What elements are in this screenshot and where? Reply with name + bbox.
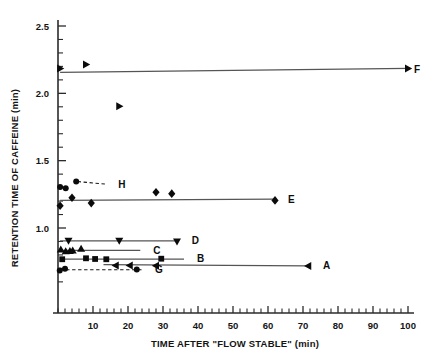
datapoint-B bbox=[83, 255, 89, 261]
y-tick-label-1.5: 1.5 bbox=[36, 155, 50, 166]
datapoint-F bbox=[83, 60, 90, 68]
datapoint-H bbox=[63, 185, 69, 191]
datapoint-B bbox=[59, 256, 65, 262]
y-tick-label-1.0: 1.0 bbox=[36, 223, 49, 234]
y-tick-label-2.0: 2.0 bbox=[36, 88, 49, 99]
series-label-D: D bbox=[192, 235, 199, 246]
trendline-F bbox=[60, 68, 408, 72]
trendline-A bbox=[104, 265, 309, 266]
series-label-H: H bbox=[118, 179, 125, 190]
x-tick-label-20: 20 bbox=[123, 320, 134, 331]
datapoint-A bbox=[126, 261, 133, 269]
series-label-A: A bbox=[323, 260, 330, 271]
datapoint-D bbox=[173, 238, 181, 245]
datapoint-G bbox=[134, 266, 140, 272]
retention-time-chart: 1020304050607080901001.01.52.02.5 FEHDCB… bbox=[0, 0, 442, 358]
x-tick-label-80: 80 bbox=[333, 320, 344, 331]
data-series-layer bbox=[57, 60, 413, 273]
datapoint-E bbox=[271, 196, 278, 205]
series-labels-layer: FEHDCBAG bbox=[118, 64, 420, 276]
x-tick-label-50: 50 bbox=[228, 320, 239, 331]
leader-line-H bbox=[78, 182, 107, 185]
x-tick-label-100: 100 bbox=[400, 320, 416, 331]
series-F bbox=[57, 60, 412, 110]
datapoint-E bbox=[152, 188, 159, 197]
datapoint-F bbox=[57, 64, 64, 72]
series-C bbox=[57, 245, 140, 254]
x-tick-label-90: 90 bbox=[368, 320, 379, 331]
datapoint-F bbox=[116, 102, 123, 110]
datapoint-B bbox=[158, 256, 164, 262]
datapoint-H bbox=[57, 184, 63, 190]
datapoint-B bbox=[92, 256, 98, 262]
series-D bbox=[60, 238, 181, 246]
series-label-C: C bbox=[153, 245, 160, 256]
series-H bbox=[57, 179, 107, 192]
x-tick-label-70: 70 bbox=[298, 320, 309, 331]
datapoint-H bbox=[73, 179, 79, 185]
series-E bbox=[57, 188, 279, 210]
y-tick-label-2.5: 2.5 bbox=[36, 21, 50, 32]
x-tick-label-60: 60 bbox=[263, 320, 274, 331]
y-axis-title: RETENTION TIME OF CAFFEINE (min) bbox=[9, 89, 20, 267]
datapoint-B bbox=[103, 256, 109, 262]
series-label-G: G bbox=[155, 264, 163, 275]
chart-canvas: 1020304050607080901001.01.52.02.5 FEHDCB… bbox=[0, 0, 442, 358]
datapoint-A bbox=[112, 261, 119, 269]
datapoint-E bbox=[168, 189, 175, 198]
x-tick-label-40: 40 bbox=[193, 320, 204, 331]
tick-labels: 1020304050607080901001.01.52.02.5 bbox=[36, 21, 416, 332]
x-tick-label-10: 10 bbox=[88, 320, 99, 331]
datapoint-G bbox=[57, 268, 63, 274]
series-label-F: F bbox=[414, 64, 420, 75]
series-label-B: B bbox=[197, 253, 204, 264]
datapoint-G bbox=[62, 266, 68, 272]
series-label-E: E bbox=[288, 194, 295, 205]
series-B bbox=[59, 255, 184, 262]
datapoint-C bbox=[77, 245, 85, 252]
x-tick-label-30: 30 bbox=[158, 320, 169, 331]
datapoint-F bbox=[405, 64, 412, 72]
x-axis-title: TIME AFTER "FLOW STABLE" (min) bbox=[151, 338, 319, 349]
datapoint-A bbox=[304, 262, 311, 270]
